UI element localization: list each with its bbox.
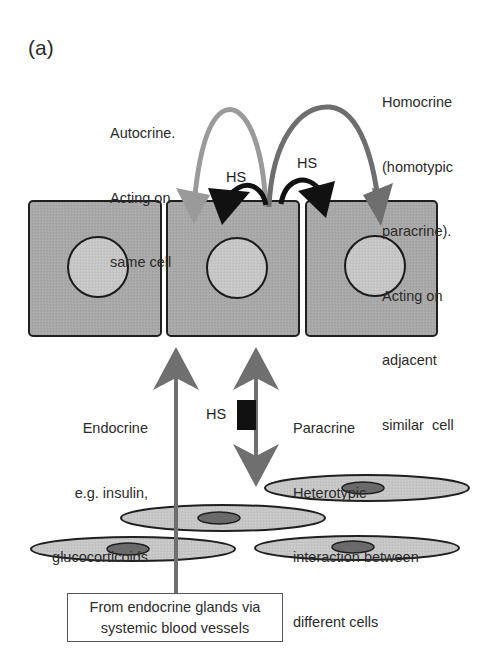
paracrine-line-1: Paracrine (293, 418, 419, 440)
paracrine-line-4: different cells (293, 612, 419, 634)
source-box-line-2: systemic blood vessels (68, 618, 282, 639)
autocrine-line-1: Autocrine. (110, 123, 175, 145)
endocrine-line-1: Endocrine (30, 418, 148, 440)
hs-paracrine-label: HS (206, 406, 226, 422)
homocrine-line-2: (homotypic (382, 157, 454, 179)
epithelial-cell-middle (167, 201, 299, 336)
hs-homocrine-label: HS (297, 155, 317, 171)
homocrine-line-4: Acting on (382, 286, 454, 308)
endocrine-source-box: From endocrine glands via systemic blood… (67, 593, 283, 642)
nucleus-middle (207, 238, 267, 298)
paracrine-arrow (233, 347, 279, 487)
source-box-line-1: From endocrine glands via (68, 597, 282, 618)
autocrine-line-2: Acting on (110, 188, 175, 210)
autocrine-line-3: same cell (110, 252, 175, 274)
paracrine-line-3: interaction between (293, 547, 419, 569)
autocrine-label: Autocrine. Acting on same cell (110, 80, 175, 295)
paracrine-label: Paracrine Heterotypic interaction betwee… (293, 375, 419, 655)
paracrine-line-2: Heterotypic (293, 483, 419, 505)
hs-autocrine-label: HS (226, 169, 246, 185)
homocrine-line-1: Homocrine (382, 92, 454, 114)
homocrine-line-5: adjacent (382, 350, 454, 372)
homocrine-line-3: paracrine). (382, 221, 454, 243)
hs-paracrine-block (237, 400, 256, 430)
panel-label: (a) (28, 36, 54, 60)
endocrine-line-3: glucocorticoids (30, 547, 148, 569)
endocrine-line-2: e.g. insulin, (30, 483, 148, 505)
